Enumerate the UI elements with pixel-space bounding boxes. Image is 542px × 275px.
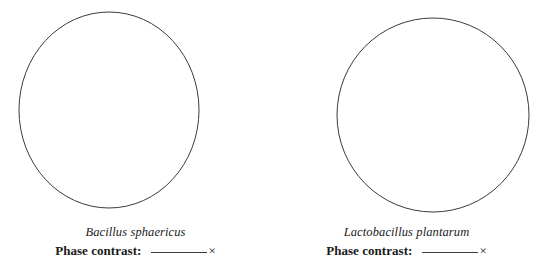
field-circle-outline-right: [337, 18, 529, 212]
magnification-blank-left[interactable]: [151, 252, 207, 253]
multiplication-sign-right: ×: [479, 243, 486, 258]
magnification-blank-right[interactable]: [422, 252, 478, 253]
species-name-left: Bacillus sphaericus: [0, 224, 271, 240]
magnification-label-left: Phase contrast:: [55, 243, 141, 258]
microscope-field-circle-left: [0, 0, 271, 220]
species-name-right: Lactobacillus plantarum: [271, 224, 542, 240]
magnification-line-right: Phase contrast:×: [271, 243, 542, 259]
specimen-panel-left: Bacillus sphaericus Phase contrast:×: [0, 0, 271, 275]
microscope-field-circle-right: [271, 0, 542, 220]
caption-right: Lactobacillus plantarum Phase contrast:×: [271, 224, 542, 259]
worksheet-page: Bacillus sphaericus Phase contrast:× Lac…: [0, 0, 542, 275]
multiplication-sign-left: ×: [208, 243, 215, 258]
caption-left: Bacillus sphaericus Phase contrast:×: [0, 224, 271, 259]
specimen-panel-right: Lactobacillus plantarum Phase contrast:×: [271, 0, 542, 275]
magnification-line-left: Phase contrast:×: [0, 243, 271, 259]
magnification-label-right: Phase contrast:: [326, 243, 412, 258]
field-circle-outline-left: [19, 12, 199, 208]
